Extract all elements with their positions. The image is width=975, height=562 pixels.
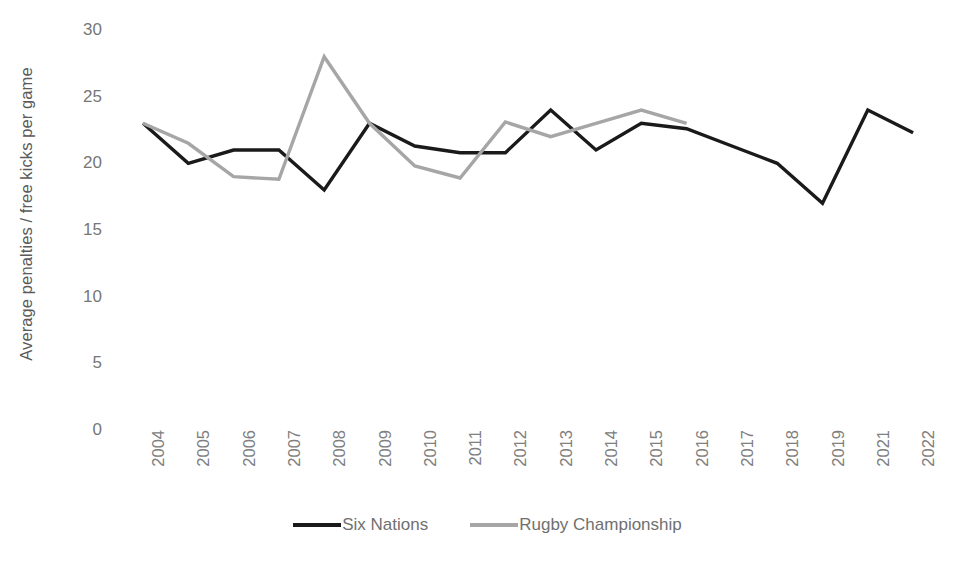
x-axis-tick-label: 2014 (602, 430, 621, 492)
y-axis-tick-label: 15 (68, 220, 102, 240)
x-axis-tick-label: 2012 (511, 430, 530, 492)
y-axis-tick-label: 0 (68, 420, 102, 440)
legend-label: Rugby Championship (519, 515, 682, 535)
x-axis-tick-label: 2019 (829, 430, 848, 492)
x-axis-tick-label: 2015 (647, 430, 666, 492)
plot-svg (113, 30, 945, 430)
series-line (143, 110, 913, 203)
line-chart: Average penalties / free kicks per game … (0, 0, 975, 562)
y-axis-tick-label: 20 (68, 153, 102, 173)
plot-area (113, 30, 945, 430)
x-axis-tick-label: 2004 (149, 430, 168, 492)
x-axis-tick-label: 2011 (466, 430, 485, 492)
series-line (143, 57, 687, 180)
x-axis-tick-label: 2013 (557, 430, 576, 492)
y-axis-tick-labels: 302520151050 (68, 0, 102, 562)
legend-item[interactable]: Rugby Championship (470, 515, 682, 535)
x-axis-tick-labels: 2004200520062007200820092010201120122013… (113, 430, 945, 500)
x-axis-tick-label: 2007 (285, 430, 304, 492)
y-axis-title: Average penalties / free kicks per game (6, 4, 46, 424)
legend-line-icon (470, 523, 518, 527)
x-axis-tick-label: 2006 (240, 430, 259, 492)
chart-legend: Six NationsRugby Championship (0, 505, 975, 545)
legend-item[interactable]: Six Nations (293, 515, 428, 535)
y-axis-tick-label: 25 (68, 87, 102, 107)
y-axis-tick-label: 30 (68, 20, 102, 40)
y-axis-tick-label: 5 (68, 353, 102, 373)
x-axis-tick-label: 2009 (376, 430, 395, 492)
x-axis-tick-label: 2022 (919, 430, 938, 492)
x-axis-tick-label: 2021 (874, 430, 893, 492)
x-axis-tick-label: 2005 (194, 430, 213, 492)
x-axis-tick-label: 2017 (738, 430, 757, 492)
legend-label: Six Nations (342, 515, 428, 535)
x-axis-tick-label: 2016 (693, 430, 712, 492)
x-axis-tick-label: 2010 (421, 430, 440, 492)
x-axis-tick-label: 2008 (330, 430, 349, 492)
x-axis-tick-label: 2018 (783, 430, 802, 492)
y-axis-tick-label: 10 (68, 287, 102, 307)
legend-line-icon (293, 523, 341, 527)
